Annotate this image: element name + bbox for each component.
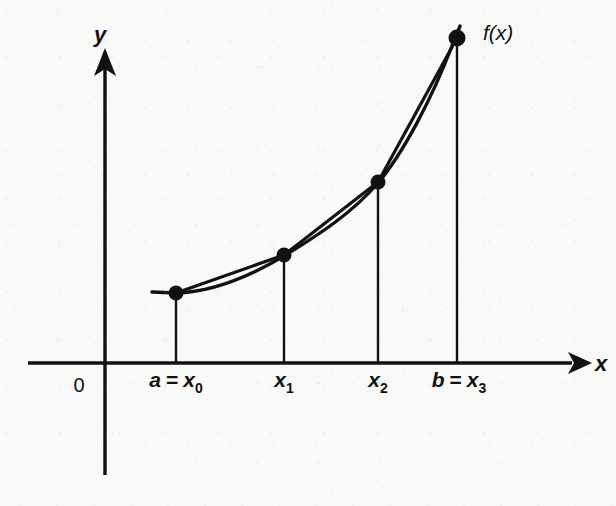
- y-axis-label: y: [93, 22, 108, 47]
- tick-label-x1-sub: 1: [286, 380, 294, 396]
- node-dot-x2: [371, 175, 386, 190]
- node-dot-x1: [277, 248, 292, 263]
- figure-canvas: y x 0 f(x) a=x0 x1 x2 b=x3: [0, 0, 616, 506]
- trapezoid-chords: [176, 38, 457, 293]
- tick-label-x0: a=x0: [149, 368, 203, 396]
- tick-label-x0-sub: 0: [195, 380, 203, 396]
- tick-label-x2: x2: [367, 368, 388, 396]
- ordinate-lines-group: [176, 38, 457, 363]
- tick-label-x3-equals: =: [450, 368, 462, 391]
- node-dot-x3: [449, 30, 466, 47]
- origin-label: 0: [73, 374, 84, 396]
- function-label: f(x): [483, 21, 513, 44]
- x-axis-label: x: [594, 351, 608, 376]
- tick-label-x0-equals: =: [166, 368, 178, 391]
- tick-label-x2-sub: 2: [380, 380, 388, 396]
- tick-label-x3-sub: 3: [478, 380, 486, 396]
- tick-label-x0-main: a: [149, 368, 161, 391]
- chords-group: [176, 38, 457, 293]
- function-curve: [152, 26, 460, 293]
- curve-group: [152, 26, 460, 293]
- labels-group: y x 0 f(x) a=x0 x1 x2 b=x3: [73, 21, 607, 396]
- tick-label-x3: b=x3: [432, 368, 487, 396]
- tick-label-x1: x1: [273, 368, 294, 396]
- tick-label-x3-main: b: [432, 368, 445, 391]
- node-dot-x0: [169, 286, 184, 301]
- trapezoidal-rule-figure: y x 0 f(x) a=x0 x1 x2 b=x3: [0, 0, 616, 506]
- axes-group: [28, 48, 592, 475]
- node-dots-group: [169, 30, 466, 301]
